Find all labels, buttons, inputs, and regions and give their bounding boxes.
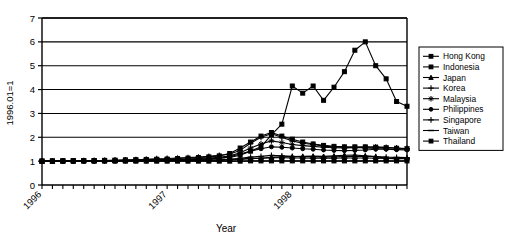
- data-marker: [279, 140, 285, 146]
- y-tick-label: 4: [30, 84, 35, 95]
- y-tick-label: 2: [30, 132, 35, 143]
- data-marker: [363, 159, 367, 163]
- y-axis-label: 1996.01=1: [4, 80, 15, 125]
- data-marker: [301, 147, 305, 151]
- data-marker: [217, 154, 221, 158]
- data-marker: [269, 131, 273, 135]
- data-marker: [113, 158, 117, 162]
- data-marker: [332, 148, 336, 152]
- data-marker: [429, 65, 433, 69]
- data-marker: [176, 157, 180, 161]
- data-marker: [155, 157, 159, 161]
- data-marker: [269, 145, 273, 149]
- data-marker: [429, 139, 433, 143]
- data-marker: [353, 159, 357, 163]
- chart-legend: Hong KongIndonesiaJapanKoreaMalaysiaPhil…: [419, 47, 503, 150]
- data-marker: [290, 137, 294, 141]
- data-marker: [92, 159, 96, 163]
- data-marker: [322, 143, 326, 147]
- y-tick-label: 6: [30, 36, 35, 47]
- data-marker: [207, 155, 211, 159]
- data-marker: [280, 122, 284, 126]
- data-marker: [428, 96, 434, 102]
- data-marker: [311, 142, 315, 146]
- data-marker: [258, 141, 264, 147]
- data-marker: [280, 145, 284, 149]
- data-marker: [384, 146, 388, 150]
- y-tick-label: 5: [30, 60, 35, 71]
- data-marker: [363, 40, 367, 44]
- data-marker: [249, 149, 253, 153]
- data-marker: [332, 144, 336, 148]
- data-marker: [405, 104, 409, 108]
- data-marker: [429, 107, 433, 111]
- legend-label: Taiwan: [443, 126, 469, 136]
- legend-label: Japan: [443, 73, 466, 83]
- data-marker: [395, 100, 399, 104]
- data-marker: [322, 98, 326, 102]
- y-tick-label: 1: [30, 156, 35, 167]
- chart-figure: 01234567 199619971998 Hong KongIndonesia…: [0, 0, 507, 247]
- data-marker: [311, 84, 315, 88]
- data-marker: [405, 147, 409, 151]
- data-marker: [311, 147, 315, 151]
- data-marker: [259, 147, 263, 151]
- data-marker: [259, 134, 263, 138]
- data-marker: [290, 159, 294, 163]
- data-marker: [82, 159, 86, 163]
- y-tick-label: 3: [30, 108, 35, 119]
- data-marker: [144, 157, 148, 161]
- data-marker: [280, 159, 284, 163]
- data-marker: [40, 159, 44, 163]
- data-marker: [353, 145, 357, 149]
- data-marker: [280, 134, 284, 138]
- data-marker: [50, 159, 54, 163]
- data-marker: [363, 145, 367, 149]
- x-axis-label: Year: [216, 223, 237, 234]
- data-marker: [290, 84, 294, 88]
- data-marker: [228, 152, 232, 156]
- data-marker: [61, 159, 65, 163]
- line-chart: 01234567 199619971998 Hong KongIndonesia…: [0, 0, 507, 247]
- legend-label: Indonesia: [443, 62, 480, 72]
- data-marker: [249, 140, 253, 144]
- legend-label: Singapore: [443, 115, 482, 125]
- data-marker: [322, 148, 326, 152]
- data-marker: [71, 159, 75, 163]
- data-marker: [186, 156, 190, 160]
- y-tick-label: 7: [30, 13, 35, 24]
- legend-label: Thailand: [443, 136, 475, 146]
- data-marker: [374, 145, 378, 149]
- data-marker: [384, 77, 388, 81]
- data-marker: [134, 158, 138, 162]
- data-marker: [395, 146, 399, 150]
- data-marker: [290, 146, 294, 150]
- data-marker: [301, 91, 305, 95]
- legend-label: Malaysia: [443, 94, 476, 104]
- data-marker: [123, 158, 127, 162]
- legend-label: Hong Kong: [443, 51, 485, 61]
- data-marker: [342, 70, 346, 74]
- legend-label: Korea: [443, 83, 466, 93]
- legend-label: Philippines: [443, 104, 484, 114]
- data-marker: [301, 140, 305, 144]
- data-marker: [374, 64, 378, 68]
- data-marker: [342, 145, 346, 149]
- data-marker: [429, 54, 433, 58]
- data-marker: [332, 85, 336, 89]
- data-marker: [165, 157, 169, 161]
- data-marker: [196, 156, 200, 160]
- data-marker: [238, 146, 242, 150]
- data-marker: [103, 158, 107, 162]
- data-marker: [353, 48, 357, 52]
